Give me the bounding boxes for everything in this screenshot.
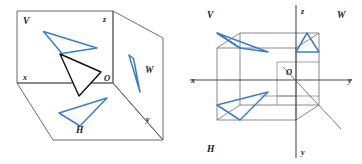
cube-front-face	[217, 48, 296, 120]
left-label-h: H	[75, 125, 84, 135]
figure-canvas: V z x O W y H	[0, 0, 362, 164]
left-label-z: z	[102, 15, 107, 24]
geometry-figure: V z x O W y H	[0, 0, 362, 164]
projection-triangle-on-h	[59, 98, 107, 126]
projection-triangle-on-v	[44, 32, 98, 54]
left-panel: V z x O W y H	[17, 11, 163, 140]
right-projection-triangle-upper-left	[217, 33, 268, 52]
right-label-y-right: y	[347, 76, 352, 85]
right-label-h: H	[206, 144, 215, 154]
right-label-w: W	[337, 10, 346, 20]
right-panel: V W z x y O H y	[190, 5, 352, 158]
left-label-origin: O	[104, 73, 110, 83]
left-label-v: V	[23, 16, 30, 26]
left-label-x: x	[22, 73, 27, 82]
right-projection-triangle-upper-right	[296, 33, 319, 52]
right-label-y-down: y	[300, 148, 305, 157]
right-label-x: x	[190, 76, 195, 85]
cube-connecting-edges	[217, 33, 319, 120]
w-plane-outline	[113, 11, 163, 140]
object-triangle	[60, 54, 101, 96]
projection-triangle-on-w	[129, 55, 140, 92]
left-label-w: W	[145, 65, 154, 75]
left-label-y: y	[145, 115, 150, 124]
cube-back-face	[240, 33, 319, 105]
right-label-origin: O	[286, 67, 292, 77]
right-label-v: V	[207, 10, 214, 20]
right-label-z: z	[300, 7, 305, 16]
coordinate-axes	[190, 5, 352, 158]
h-plane-outline	[17, 83, 163, 140]
